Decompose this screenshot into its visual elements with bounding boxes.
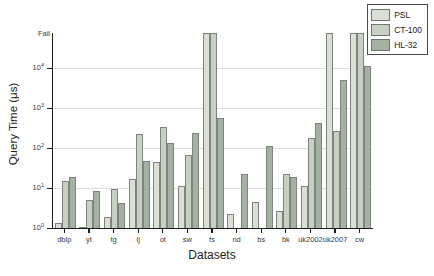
- bar-psl-bs: [252, 202, 259, 229]
- y-axis-tick: [47, 108, 52, 109]
- bar-hl-32-fs: [217, 118, 224, 228]
- x-axis-tick: [310, 229, 311, 233]
- bar-hl-32-ot: [167, 143, 174, 228]
- bar-ct-100-sw: [185, 155, 192, 228]
- bar-psl-dblp: [55, 223, 62, 228]
- legend-label-hl32: HL-32: [394, 40, 417, 50]
- x-axis-tick: [236, 229, 237, 233]
- hl32-swatch-icon: [371, 39, 390, 51]
- x-axis-tick: [187, 229, 188, 233]
- bar-hl-32-tg: [118, 203, 125, 228]
- x-axis-tick: [88, 229, 89, 233]
- bar-psl-sw: [178, 186, 185, 228]
- bar-ct-100-dblp: [62, 181, 69, 228]
- x-axis-tick: [64, 229, 65, 233]
- bar-ct-100-uk2007: [333, 131, 340, 228]
- ct100-swatch-icon: [371, 24, 390, 36]
- bar-ct-100-lj: [136, 134, 143, 228]
- bar-psl-bk: [276, 211, 283, 228]
- bar-psl-lj: [129, 179, 136, 228]
- query-time-bar-chart: Fail Query Time (μs) Datasets PSL CT-100…: [0, 0, 434, 276]
- bar-ct-100-cw: [357, 33, 364, 228]
- bar-hl-32-bs: [266, 146, 273, 228]
- x-axis-tick: [113, 229, 114, 233]
- x-axis-tick: [162, 229, 163, 233]
- y-axis-title: Query Time (μs): [7, 59, 19, 189]
- bar-hl-32-dblp: [69, 177, 76, 228]
- bar-psl-cw: [350, 33, 357, 228]
- legend-row-psl: PSL: [371, 7, 422, 22]
- bar-hl-32-uk2002: [315, 123, 322, 228]
- bar-psl-uk2002: [301, 186, 308, 228]
- bar-psl-yt: [79, 227, 86, 228]
- bar-psl-uk2007: [326, 33, 333, 228]
- legend-label-psl: PSL: [394, 10, 410, 20]
- bar-hl-32-bk: [290, 177, 297, 228]
- y-axis-tick: [47, 68, 52, 69]
- x-axis-title: Datasets: [52, 248, 372, 262]
- x-axis-tick: [261, 229, 262, 233]
- bar-hl-32-lj: [143, 161, 150, 228]
- bar-ct-100-uk2002: [308, 138, 315, 228]
- bar-psl-tg: [104, 217, 111, 228]
- bar-hl-32-nd: [241, 174, 248, 228]
- bar-hl-32-uk2007: [340, 80, 347, 228]
- x-axis-tick: [138, 229, 139, 233]
- bar-psl-fs: [203, 33, 210, 228]
- bar-hl-32-yt: [93, 191, 100, 228]
- bar-hl-32-sw: [192, 133, 199, 228]
- x-axis-tick: [334, 229, 335, 233]
- bar-hl-32-cw: [364, 66, 371, 228]
- legend-row-hl32: HL-32: [371, 37, 422, 52]
- x-axis-tick: [211, 229, 212, 233]
- plot-area: [52, 33, 373, 229]
- bar-ct-100-tg: [111, 189, 118, 228]
- bar-ct-100-bk: [283, 174, 290, 228]
- y-tick-label: 102: [14, 144, 44, 152]
- x-tick-label-cw: cw: [338, 235, 382, 244]
- y-tick-label: 104: [14, 64, 44, 72]
- y-tick-label: 103: [14, 104, 44, 112]
- bar-psl-ot: [153, 162, 160, 228]
- bar-ct-100-yt: [86, 200, 93, 228]
- x-axis-tick: [359, 229, 360, 233]
- y-tick-label: 100: [14, 224, 44, 232]
- legend-row-ct100: CT-100: [371, 22, 422, 37]
- psl-swatch-icon: [371, 9, 390, 21]
- bar-ct-100-fs: [210, 33, 217, 228]
- bar-psl-nd: [227, 214, 234, 228]
- x-axis-tick: [285, 229, 286, 233]
- y-tick-label: 101: [14, 184, 44, 192]
- fail-axis-label: Fail: [22, 29, 50, 38]
- y-axis-tick: [47, 148, 52, 149]
- y-axis-tick: [47, 228, 52, 229]
- legend: PSL CT-100 HL-32: [367, 4, 428, 55]
- y-axis-tick: [47, 188, 52, 189]
- legend-label-ct100: CT-100: [394, 25, 422, 35]
- bar-ct-100-ot: [160, 127, 167, 228]
